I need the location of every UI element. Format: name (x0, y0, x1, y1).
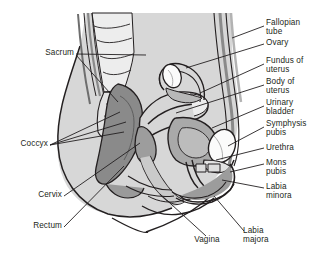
label-vagina: Vagina (188, 235, 226, 244)
label-labia-majora: Labia majora (243, 226, 269, 245)
label-fallopian-tube: Fallopian tube (266, 18, 300, 37)
label-symphysis-pubis: Symphysis pubis (266, 119, 306, 138)
label-ovary: Ovary (266, 38, 288, 47)
label-body-of-uterus: Body of uterus (266, 77, 294, 96)
label-sacrum: Sacrum (0, 48, 74, 57)
leader-labia-majora (214, 196, 244, 231)
label-mons-pubis: Mons pubis (266, 158, 286, 177)
label-rectum: Rectum (0, 221, 62, 230)
leader-fallopian-tube (232, 26, 264, 38)
label-urethra: Urethra (266, 143, 294, 152)
label-coccyx: Coccyx (0, 139, 48, 148)
label-labia-minora: Labia minora (266, 182, 292, 201)
label-cervix: Cervix (0, 190, 62, 199)
label-urinary-bladder: Urinary bladder (266, 98, 294, 117)
label-fundus-of-uterus: Fundus of uterus (266, 56, 303, 75)
anatomy-figure: Fallopian tube Ovary Fundus of uterus Bo… (0, 0, 323, 264)
leader-mons-pubis (230, 164, 264, 172)
